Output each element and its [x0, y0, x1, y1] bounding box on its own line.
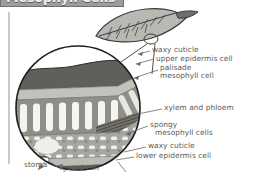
page-title: Mesophyll Cells — [6, 0, 116, 5]
figure-title-bar: Mesophyll Cells — [0, 0, 124, 7]
label-xylem-and-phloem: xylem and phloem — [164, 104, 234, 112]
label-mesophyll-cells: mesophyll cells — [155, 129, 213, 137]
label-stoma: stoma — [24, 161, 47, 169]
label-mesophyll-cell: mesophyll cell — [160, 72, 214, 80]
magnified-cross-section — [14, 44, 146, 176]
leaf-mesophyll-diagram — [0, 0, 253, 181]
label-lower-epidermis-cell: lower epidermis cell — [136, 152, 211, 160]
label-waxy-cuticle-lower: waxy cuticle — [148, 142, 195, 150]
label-guard-cell: guard cell — [62, 164, 99, 172]
whole-leaf-illustration — [96, 9, 198, 44]
